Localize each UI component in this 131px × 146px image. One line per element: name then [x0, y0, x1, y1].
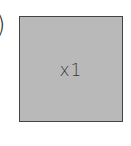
- x1-tile: x1: [19, 16, 123, 122]
- tile-label: x1: [60, 60, 83, 80]
- closing-parenthesis-fragment: ): [0, 13, 5, 37]
